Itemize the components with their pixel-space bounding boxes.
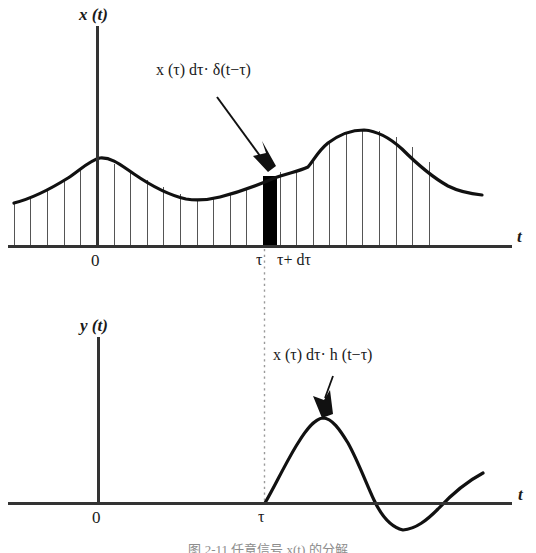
figure-caption: 图 2-11 任意信号 x(t) 的分解: [0, 539, 536, 553]
top-origin-tick-label: 0: [91, 252, 100, 269]
response-annotation-arrow: [313, 376, 333, 418]
impulse-annotation-arrow: [217, 97, 276, 172]
top-tau-plus-dtau-tick-label: τ+ dτ: [277, 252, 311, 268]
bottom-tau-tick-label: τ: [258, 509, 264, 525]
figure-container: x (t) 0 τ τ+ dτ t x (τ) dτ· δ(t−τ) y (t)…: [0, 0, 536, 553]
figure-canvas: [0, 0, 536, 553]
response-curve-y: [265, 418, 483, 530]
top-plot-group: [8, 26, 512, 247]
impulse-strip: [263, 176, 277, 246]
top-annotation-label: x (τ) dτ· δ(t−τ): [156, 62, 251, 78]
top-x-axis-label: t: [517, 228, 522, 245]
bottom-origin-tick-label: 0: [92, 509, 101, 526]
hatch-lines: [14, 130, 429, 246]
bottom-y-axis-label: y (t): [80, 317, 108, 334]
top-tau-tick-label: τ: [256, 252, 262, 268]
top-y-axis-label: x (t): [79, 6, 108, 23]
bottom-plot-group: [8, 337, 512, 530]
bottom-x-axis-label: t: [518, 486, 523, 503]
bottom-annotation-label: x (τ) dτ· h (t−τ): [273, 347, 372, 363]
